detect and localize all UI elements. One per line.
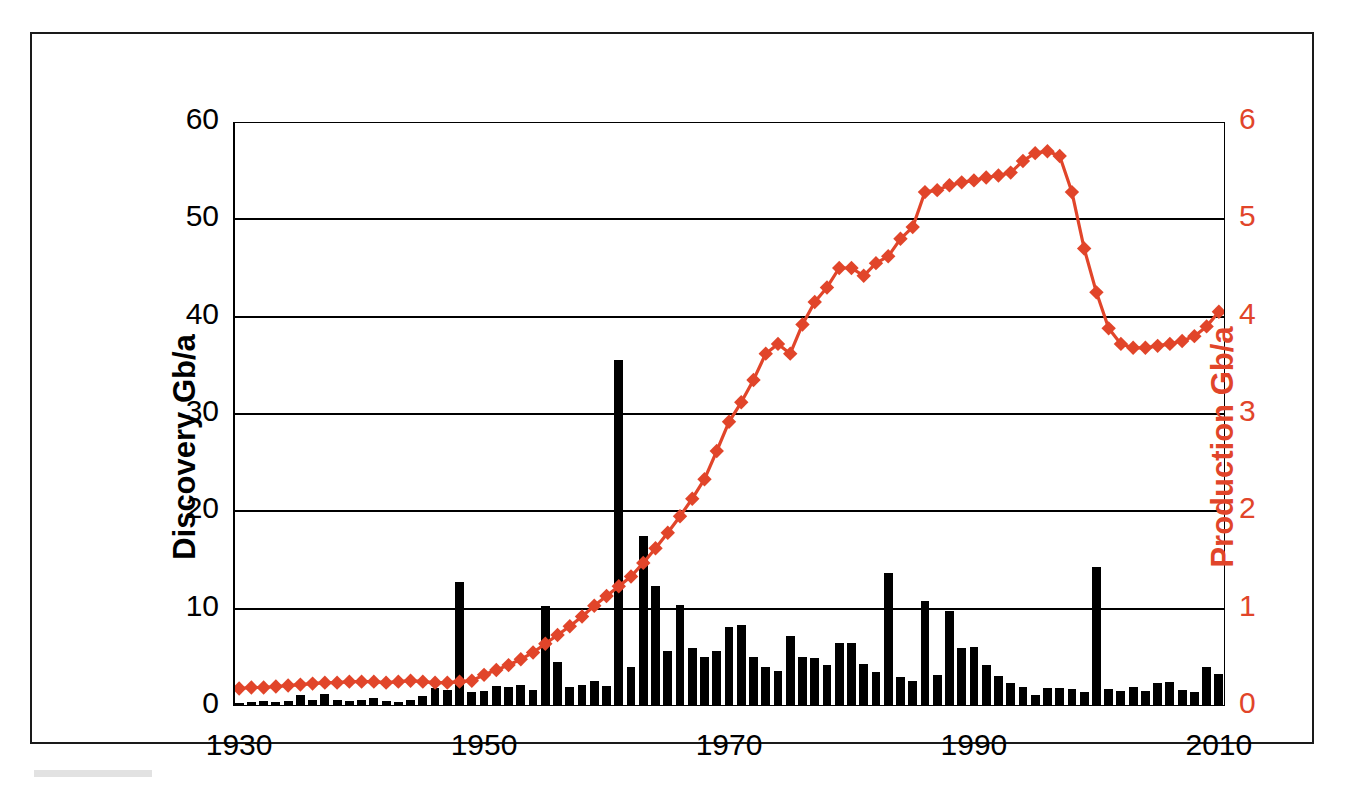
ytick-right-0: 0 — [1239, 686, 1319, 720]
figure-root: 0 10 20 30 40 50 60 0 1 2 3 4 5 6 1930 1… — [0, 0, 1346, 800]
xtick-1930: 1930 — [169, 728, 309, 762]
ytick-right-1: 1 — [1239, 589, 1319, 623]
ytick-right-4: 4 — [1239, 297, 1319, 331]
scan-artifact — [34, 770, 152, 777]
chart-svg — [233, 122, 1225, 706]
xtick-1990: 1990 — [904, 728, 1044, 762]
ytick-left-0: 0 — [139, 686, 219, 720]
right-axis-title: Production Gb/a — [1205, 297, 1241, 597]
ytick-left-50: 50 — [139, 199, 219, 233]
plot-area: 0 10 20 30 40 50 60 0 1 2 3 4 5 6 1930 1… — [233, 122, 1225, 706]
ytick-right-5: 5 — [1239, 199, 1319, 233]
figure-frame: 0 10 20 30 40 50 60 0 1 2 3 4 5 6 1930 1… — [30, 32, 1314, 744]
ytick-right-6: 6 — [1239, 102, 1319, 136]
production-line — [233, 144, 1225, 696]
left-axis-title: Discovery Gb/a — [167, 297, 203, 597]
ytick-right-3: 3 — [1239, 394, 1319, 428]
ytick-right-2: 2 — [1239, 491, 1319, 525]
xtick-2010: 2010 — [1149, 728, 1289, 762]
ytick-left-60: 60 — [139, 102, 219, 136]
xtick-1970: 1970 — [659, 728, 799, 762]
gridlines — [233, 122, 1225, 609]
discovery-bars — [235, 360, 1224, 706]
xtick-1950: 1950 — [414, 728, 554, 762]
